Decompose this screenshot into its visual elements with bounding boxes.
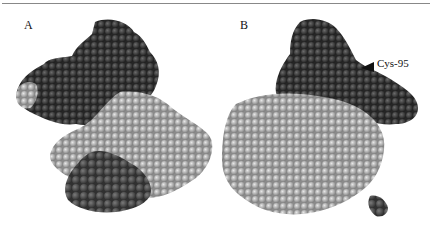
- panel-a-molecule: [16, 20, 212, 213]
- panel-label-b: B: [240, 18, 248, 33]
- molecule-illustrations: [0, 0, 435, 228]
- panel-label-a: A: [24, 18, 33, 33]
- cys95-annotation: Cys-95: [377, 57, 409, 69]
- panel-b-molecule: [222, 19, 418, 216]
